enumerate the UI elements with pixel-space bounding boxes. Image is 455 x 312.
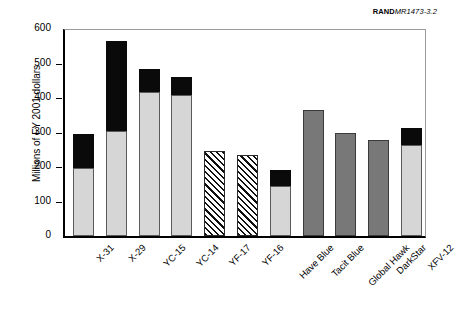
bar-segment-upper	[270, 170, 291, 186]
bar-yc-14	[171, 77, 192, 236]
bar-segment-lower	[171, 95, 192, 236]
x-label-have-blue: Have Blue	[297, 242, 336, 281]
x-label-yc-15: YC-15	[161, 242, 188, 269]
x-label-yc-14: YC-14	[194, 242, 221, 269]
y-tick-label: 400	[34, 91, 51, 102]
bar-segment-lower	[73, 168, 94, 236]
bar-global-hawk	[335, 133, 356, 236]
plot-area	[63, 29, 426, 238]
y-tick-mark	[56, 167, 62, 168]
bar-segment-hatched	[204, 151, 225, 236]
bar-have-blue	[270, 170, 291, 236]
bar-segment-dark	[368, 140, 389, 236]
y-tick-label: 500	[34, 57, 51, 68]
bar-darkstar	[368, 140, 389, 236]
bar-yc-15	[139, 69, 160, 236]
y-tick-mark	[56, 133, 62, 134]
x-label-xfv-12: XFV-12	[425, 242, 455, 272]
bar-x-29	[106, 41, 127, 236]
bar-segment-lower	[270, 186, 291, 236]
bar-segment-upper	[73, 134, 94, 167]
bar-x-31	[73, 134, 94, 236]
y-tick-mark	[56, 202, 62, 203]
credit-number: MR1473-3.2	[395, 7, 437, 16]
bar-segment-upper	[401, 128, 422, 144]
y-tick-label: 100	[34, 195, 51, 206]
bar-segment-upper	[106, 41, 127, 131]
rand-source-credit: RANDMR1473-3.2	[373, 7, 437, 16]
bar-segment-upper	[171, 77, 192, 95]
x-label-yf-16: YF-16	[259, 242, 285, 268]
x-label-tacit-blue: Tacit Blue	[329, 242, 366, 279]
bar-segment-lower	[139, 92, 160, 236]
bar-segment-hatched	[237, 155, 258, 236]
y-tick-label: 0	[45, 229, 51, 240]
x-label-yf-17: YF-17	[226, 242, 252, 268]
bar-yf-16	[237, 155, 258, 236]
bar-segment-dark	[335, 133, 356, 236]
bar-yf-17	[204, 151, 225, 236]
bar-segment-dark	[303, 110, 324, 236]
bar-segment-lower	[401, 145, 422, 236]
y-tick-label: 200	[34, 160, 51, 171]
credit-prefix: RAND	[373, 7, 395, 16]
bar-segment-lower	[106, 131, 127, 236]
bar-tacit-blue	[303, 110, 324, 236]
bar-xfv-12	[401, 128, 422, 236]
y-tick-mark	[56, 64, 62, 65]
x-label-x-31: X-31	[93, 242, 115, 264]
bar-segment-upper	[139, 69, 160, 92]
x-label-x-29: X-29	[126, 242, 148, 264]
y-tick-label: 600	[34, 22, 51, 33]
y-tick-mark	[56, 98, 62, 99]
y-tick-label: 300	[34, 126, 51, 137]
